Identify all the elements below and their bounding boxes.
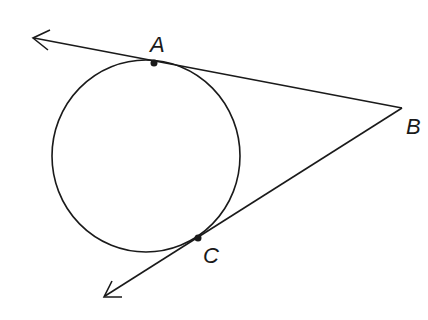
label-c: C: [203, 243, 219, 268]
label-a: A: [148, 32, 165, 57]
diagram-canvas: A B C: [0, 0, 428, 320]
point-c: [195, 235, 202, 242]
label-b: B: [406, 114, 421, 139]
point-a: [151, 60, 158, 67]
tangent-ray-bc: [105, 108, 402, 296]
tangent-ray-ba: [34, 38, 402, 108]
circle: [52, 60, 240, 252]
